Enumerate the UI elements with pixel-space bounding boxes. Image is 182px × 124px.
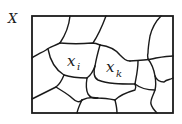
svg-text:x: x <box>106 58 115 76</box>
set-label: X <box>7 11 18 26</box>
svg-text:x: x <box>67 52 76 70</box>
partition-diagram: X <box>0 0 182 124</box>
cell-boundaries <box>32 16 173 113</box>
cell-label-xk: x k <box>106 58 122 79</box>
svg-text:k: k <box>116 68 122 79</box>
svg-text:i: i <box>77 61 80 72</box>
cell-label-xi: x i <box>67 52 80 72</box>
